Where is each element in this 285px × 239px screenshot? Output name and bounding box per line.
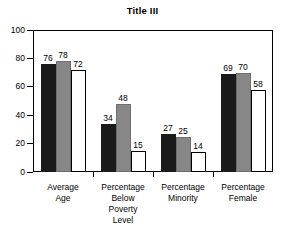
bar-chart: Title III 020406080100 76787234481527251… xyxy=(0,0,285,239)
bar xyxy=(161,134,176,172)
category-label: PercentageFemale xyxy=(213,182,273,204)
category-label-line: Age xyxy=(33,193,93,204)
bar xyxy=(236,73,251,172)
category-label-line: Level xyxy=(93,215,153,226)
y-axis-tick xyxy=(27,58,33,59)
y-axis-label: 100 xyxy=(0,26,25,35)
bar xyxy=(56,61,71,172)
category-label-line: Percentage xyxy=(93,182,153,193)
bar xyxy=(176,137,191,173)
bar-value-label: 58 xyxy=(253,80,262,89)
bar-value-label: 69 xyxy=(223,64,232,73)
bar-value-label: 15 xyxy=(133,141,142,150)
bar-value-label: 48 xyxy=(118,94,127,103)
y-axis-tick xyxy=(27,172,33,173)
bar xyxy=(221,74,236,172)
category-label-line: Percentage xyxy=(213,182,273,193)
y-axis-tick xyxy=(27,30,33,31)
bar xyxy=(116,104,131,172)
bar-value-label: 14 xyxy=(193,142,202,151)
category-label: AverageAge xyxy=(33,182,93,204)
category-label-line: Average xyxy=(33,182,93,193)
bar-value-label: 72 xyxy=(73,60,82,69)
category-label-line: Below xyxy=(93,193,153,204)
y-axis-label: 40 xyxy=(0,111,25,120)
category-label-line: Poverty xyxy=(93,204,153,215)
bar xyxy=(191,152,206,172)
bar-value-label: 25 xyxy=(178,127,187,136)
x-axis-tick xyxy=(213,172,214,177)
category-label: PercentageBelowPovertyLevel xyxy=(93,182,153,226)
bar xyxy=(101,124,116,172)
y-axis-label: 0 xyxy=(0,168,25,177)
y-axis-label: 80 xyxy=(0,54,25,63)
bar-value-label: 27 xyxy=(163,124,172,133)
category-label-line: Female xyxy=(213,193,273,204)
bar xyxy=(41,64,56,172)
y-axis-label: 20 xyxy=(0,139,25,148)
bar xyxy=(71,70,86,172)
category-label-line: Minority xyxy=(153,193,213,204)
bar-value-label: 76 xyxy=(43,54,52,63)
bar xyxy=(131,151,146,172)
y-axis-tick xyxy=(27,143,33,144)
bar-value-label: 70 xyxy=(238,63,247,72)
x-axis-tick xyxy=(153,172,154,177)
bar-value-label: 34 xyxy=(103,114,112,123)
chart-title: Title III xyxy=(0,5,285,16)
y-axis-label: 60 xyxy=(0,82,25,91)
y-axis-tick xyxy=(27,115,33,116)
bar xyxy=(251,90,266,172)
category-label: PercentageMinority xyxy=(153,182,213,204)
x-axis-tick xyxy=(93,172,94,177)
y-axis-tick xyxy=(27,86,33,87)
bar-value-label: 78 xyxy=(58,51,67,60)
category-label-line: Percentage xyxy=(153,182,213,193)
